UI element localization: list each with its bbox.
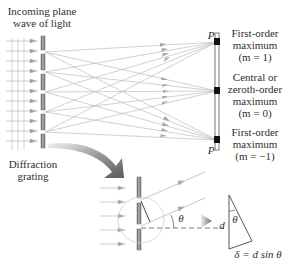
inset-detail xyxy=(100,172,252,250)
maximum-label-m0: Central or zeroth-order maximum (m = 0) xyxy=(220,71,290,119)
small-arrow-icon xyxy=(201,214,212,228)
point-p-bottom: P xyxy=(207,144,215,156)
maximum-label-m1: First-order maximum (m = 1) xyxy=(222,27,288,63)
point-p-top: P xyxy=(207,29,215,41)
incoming-wavefronts xyxy=(12,38,24,150)
triangle-angle-label: θ xyxy=(231,213,239,225)
incoming-label: Incoming plane wave of light xyxy=(4,5,80,29)
grating-label: Diffraction grating xyxy=(6,158,60,182)
maximum-spot-m-1 xyxy=(214,136,220,143)
maximum-label-m-1: First-order maximum (m = −1) xyxy=(222,126,288,162)
diffraction-grating xyxy=(41,36,45,148)
path-difference-formula: δ = d sin θ xyxy=(226,248,290,260)
incoming-rays xyxy=(6,39,38,143)
inset-angle-label: θ xyxy=(176,212,186,224)
triangle-side-label: d xyxy=(218,219,226,231)
diffracted-rays xyxy=(45,42,217,140)
